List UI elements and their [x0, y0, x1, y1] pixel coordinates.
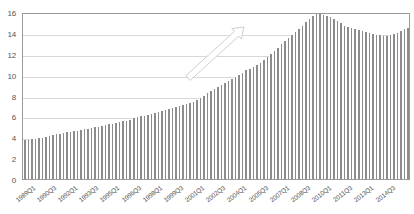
bar	[406, 28, 410, 179]
x-axis-tick-label: 1998Q1	[141, 184, 163, 203]
y-axis: 0246810121416	[0, 13, 19, 180]
bar-series	[23, 14, 409, 179]
y-axis-tick-label: 12	[8, 50, 17, 59]
x-axis-tick-label: 2007Q1	[268, 184, 290, 203]
x-axis-tick-label: 2013Q1	[353, 184, 375, 203]
y-axis-tick-label: 8	[12, 92, 16, 101]
x-axis-tick-label: 1989Q1	[14, 184, 36, 203]
x-axis-tick-label: 2002Q3	[204, 184, 226, 203]
y-axis-tick-label: 0	[12, 176, 16, 185]
plot-area	[22, 13, 410, 180]
quarterly-bar-chart: 0246810121416 1989Q11990Q31992Q11993Q319…	[0, 0, 414, 214]
x-axis-tick-label: 2004Q1	[226, 184, 248, 203]
x-axis-tick-label: 2010Q1	[310, 184, 332, 203]
y-axis-tick-label: 6	[12, 113, 16, 122]
x-axis-tick-label: 1999Q3	[162, 184, 184, 203]
y-axis-tick-label: 16	[8, 9, 17, 18]
x-axis-tick-label: 1993Q3	[77, 184, 99, 203]
y-axis-tick-label: 10	[8, 71, 17, 80]
y-axis-tick-label: 2	[12, 155, 16, 164]
x-axis: 1989Q11990Q31992Q11993Q31995Q11996Q31998…	[22, 181, 410, 214]
x-axis-tick-label: 2008Q3	[289, 184, 311, 203]
x-axis-tick-label: 2005Q3	[247, 184, 269, 203]
x-axis-tick-label: 2001Q1	[183, 184, 205, 203]
y-axis-tick-label: 4	[12, 134, 16, 143]
x-axis-tick-label: 1992Q1	[56, 184, 78, 203]
x-axis-tick-label: 1996Q3	[120, 184, 142, 203]
x-axis-tick-label: 2014Q3	[374, 184, 396, 203]
x-axis-tick-label: 2011Q3	[332, 184, 354, 203]
x-axis-tick-label: 1995Q1	[99, 184, 121, 203]
y-axis-tick-label: 14	[8, 29, 17, 38]
x-axis-tick-label: 1990Q3	[35, 184, 57, 203]
